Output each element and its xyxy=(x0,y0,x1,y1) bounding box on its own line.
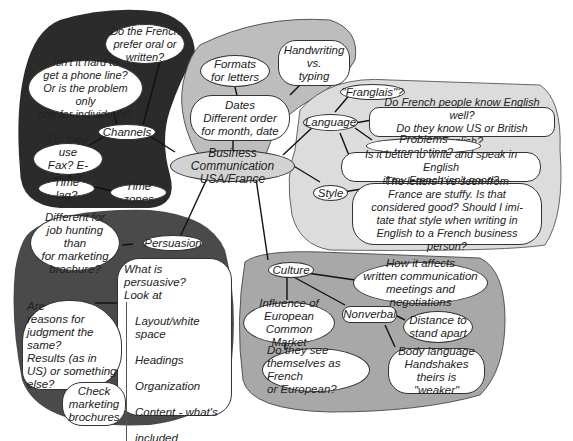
node-handwriting: Handwriting vs. typing xyxy=(278,40,350,86)
node-language[interactable]: Language xyxy=(303,114,358,131)
node-affects: How it affects written communication mee… xyxy=(353,262,488,304)
center-node[interactable]: Business Communication USA/France xyxy=(170,150,295,182)
node-what-persuasive: What is persuasive? Look at Layout/white… xyxy=(117,258,232,416)
look-at-list: Layout/white space Headings Organization… xyxy=(126,302,225,441)
node-persuasion[interactable]: Persuasion xyxy=(143,235,203,251)
node-french-european: Do they see themselves as French or Euro… xyxy=(262,348,370,392)
node-channels[interactable]: Channels xyxy=(98,124,156,140)
look-at-item: Headings xyxy=(135,354,225,367)
node-style-letters: The letters I've seen from France are st… xyxy=(352,183,542,245)
node-job-hunting: Different for job hunting than for marke… xyxy=(30,215,120,271)
look-at-item: included xyxy=(135,432,225,441)
node-body-language: Body language Handshakes theirs is "weak… xyxy=(388,348,485,394)
node-time-zones: Time zones xyxy=(110,184,167,201)
node-phone-line: Isn't it hard to get a phone line? Or is… xyxy=(28,60,143,116)
node-influence: Influence of European Common Market xyxy=(243,302,335,344)
look-at-item: Organization xyxy=(135,380,225,393)
node-distance: Distance to stand apart xyxy=(403,311,473,343)
node-dates: Dates Different order for month, date xyxy=(190,95,290,141)
node-nonverbal[interactable]: Nonverbal xyxy=(342,306,397,323)
node-culture[interactable]: Culture xyxy=(268,262,314,278)
node-style[interactable]: Style xyxy=(313,185,348,201)
node-formats-letters: Formats for letters xyxy=(200,55,270,87)
node-reasons: Are reasons for judgment the same? Resul… xyxy=(22,300,122,390)
look-at-item: Content - what's xyxy=(135,406,225,419)
node-check-brochures: Check marketing brochures xyxy=(62,382,126,426)
what-persuasive-heading: What is persuasive? Look at xyxy=(124,263,225,302)
node-fax-email: Do they use Fax? E-mail? xyxy=(33,143,103,175)
look-at-item: Layout/white space xyxy=(135,315,225,341)
node-time-lag: Time lag? xyxy=(38,180,95,197)
clipped-header-strip xyxy=(60,0,260,4)
